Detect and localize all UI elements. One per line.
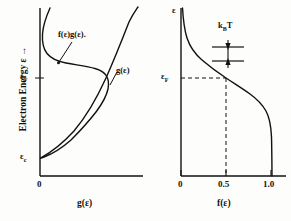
right-xtick-label-05: 0.5 [218,180,229,189]
left-curve-label-f-g: f(ε)g(ε). [58,30,86,39]
left-leader-dot [57,61,60,64]
right-y-axis-title: ε [172,6,176,15]
left-eps-c-subscript: c [24,157,27,163]
right-curve-fermi-dirac [183,8,273,176]
left-curve-label-g: g(ε) [116,66,130,75]
left-curve-g-of-eps [41,7,139,158]
kbt-annotation-label: kBT [218,21,232,32]
left-y-axis-title: Electron Energy ε → [18,19,28,159]
left-eps-f-tick-label: εF [20,72,27,83]
right-eps-f-tick-label: εF [161,72,168,83]
plot-vector-layer [0,0,291,221]
left-xtick-label-zero: 0 [37,180,42,189]
right-xtick-label-0: 0 [178,180,183,189]
left-leader-line [59,42,72,62]
right-eps-f-subscript: F [165,77,169,83]
right-xtick-label-10: 1.0 [263,180,274,189]
kbt-label-t: T [227,20,233,30]
left-x-axis-title: g(ε) [77,199,92,209]
left-eps-f-subscript: F [24,77,28,83]
right-x-axis-title: f(ε) [217,199,231,209]
figure-container: Electron Energy ε → εF εc 0 g(ε) f(ε)g(ε… [0,0,291,221]
left-eps-c-tick-label: εc [20,152,26,163]
